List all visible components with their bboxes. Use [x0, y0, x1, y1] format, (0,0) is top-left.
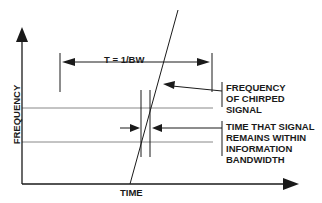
time-annotation-line: TIME THAT SIGNAL	[226, 121, 314, 132]
chirp-line	[130, 10, 178, 184]
chirp-annotation-line: FREQUENCY	[226, 82, 286, 93]
y-axis-label: FREQUENCY	[11, 85, 22, 145]
time-annotation-line: BANDWIDTH	[226, 154, 314, 165]
period-right-arrow-icon	[197, 58, 210, 66]
chirp-leader-arrow-icon	[163, 81, 175, 89]
y-axis-arrow-icon	[16, 27, 28, 42]
x-axis-label: TIME	[120, 187, 143, 198]
period-left-arrow-icon	[62, 58, 75, 66]
time-annotation-line: REMAINS WITHIN	[226, 132, 314, 143]
x-axis-arrow-icon	[283, 178, 299, 190]
time-left-arrow-icon	[130, 124, 140, 132]
chirp-annotation-line: SIGNAL	[226, 104, 286, 115]
chirp-annotation-line: OF CHIRPED	[226, 93, 286, 104]
time-annotation: TIME THAT SIGNAL REMAINS WITHIN INFORMAT…	[226, 121, 314, 165]
time-annotation-line: INFORMATION	[226, 143, 314, 154]
time-right-arrow-icon	[152, 124, 162, 132]
period-label: T = 1/BW	[104, 54, 144, 65]
chirp-leader-line	[172, 86, 222, 91]
chirp-annotation: FREQUENCY OF CHIRPED SIGNAL	[226, 82, 286, 115]
